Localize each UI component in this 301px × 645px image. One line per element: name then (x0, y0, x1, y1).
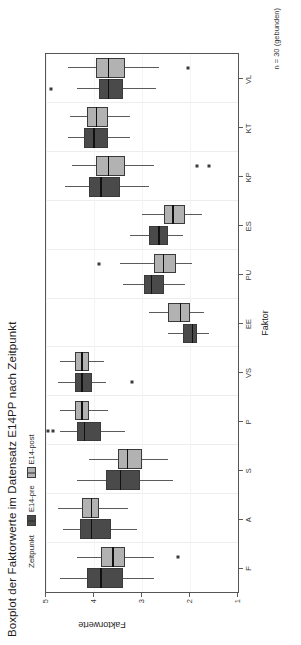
y-axis: 54321 (45, 593, 239, 615)
legend-title: Zeitpunkt (27, 535, 36, 568)
gridline-value (142, 54, 143, 592)
boxplot-box[interactable] (99, 79, 123, 99)
boxplot-outlier (52, 430, 55, 433)
legend-item-e14-post[interactable]: E14-post (27, 434, 36, 478)
boxplot-box[interactable] (75, 373, 92, 393)
y-tick-label-4: 4 (89, 599, 98, 603)
y-tick (141, 593, 142, 597)
boxplot-median (163, 254, 165, 274)
boxplot-box[interactable] (183, 324, 197, 344)
boxplot-median (112, 547, 114, 567)
figure-rotator: Boxplot der Faktorwerte im Datensatz E14… (0, 0, 301, 645)
boxplot-median (108, 156, 110, 176)
boxplot-median (127, 449, 129, 469)
boxplot-median (91, 498, 93, 518)
boxplot-box[interactable] (144, 275, 163, 295)
y-tick (93, 593, 94, 597)
x-tick-label-kt: KT (244, 124, 253, 134)
legend-key-post-icon (27, 467, 36, 478)
boxplot-median (96, 107, 98, 127)
x-axis-title: Faktor (260, 53, 270, 593)
boxplot-median (81, 373, 83, 393)
x-tick-label-a: A (244, 517, 253, 522)
boxplot-median (81, 352, 83, 372)
legend-label-e14-pre: E14-pre (27, 485, 36, 512)
x-tick-label-vl: VL (244, 75, 253, 84)
x-tick-label-es: ES (244, 221, 253, 231)
x-tick-label-ee: EE (244, 319, 253, 329)
y-axis-title: Faktorwerte (5, 620, 199, 630)
boxplot-median (100, 568, 102, 588)
x-tick (239, 225, 243, 226)
y-tick-label-1: 1 (233, 599, 242, 603)
x-tick-label-p: P (244, 419, 253, 424)
boxplot-box[interactable] (84, 128, 108, 148)
x-tick-label-f: F (244, 566, 253, 571)
x-tick (239, 519, 243, 520)
x-tick (239, 372, 243, 373)
boxplot-box[interactable] (96, 58, 125, 78)
boxplot-outlier (186, 66, 189, 69)
x-tick-label-s: S (244, 468, 253, 473)
boxplot-box[interactable] (77, 422, 101, 442)
boxplot-median (93, 128, 95, 148)
boxplot-outlier (97, 262, 100, 265)
boxplot-box[interactable] (164, 205, 186, 225)
boxplot-median (120, 470, 122, 490)
legend: Zeitpunkt E14-pre E14-post (27, 434, 36, 568)
page-title: Boxplot der Faktorwerte im Datensatz E14… (6, 321, 18, 637)
x-tick (239, 421, 243, 422)
legend-label-e14-post: E14-post (27, 434, 36, 464)
x-tick-label-vs: VS (244, 368, 253, 378)
y-tick (237, 593, 238, 597)
x-tick (239, 127, 243, 128)
y-tick-label-5: 5 (41, 599, 50, 603)
boxplot-box[interactable] (87, 568, 123, 588)
x-tick (239, 323, 243, 324)
chart-caption: n = 30 (gebunden) (272, 8, 281, 70)
plot-panel (45, 53, 239, 593)
boxplot-box[interactable] (106, 470, 140, 490)
boxplot-median (180, 303, 182, 323)
boxplot-median (81, 401, 83, 421)
x-tick (239, 176, 243, 177)
x-tick (239, 78, 243, 79)
x-tick (239, 470, 243, 471)
boxplot-box[interactable] (118, 449, 142, 469)
y-tick-label-3: 3 (137, 599, 146, 603)
boxplot-median (91, 519, 93, 539)
boxplot-outlier (49, 87, 52, 90)
chart-figure: Boxplot der Faktorwerte im Datensatz E14… (0, 0, 301, 645)
boxplot-median (108, 79, 110, 99)
boxplot-outlier (177, 556, 180, 559)
boxplot-box[interactable] (154, 254, 176, 274)
legend-key-pre-icon (27, 515, 36, 526)
boxplot-median (84, 422, 86, 442)
y-tick (45, 593, 46, 597)
boxplot-box[interactable] (96, 156, 125, 176)
boxplot-box[interactable] (89, 177, 120, 197)
x-axis: FASPVSEEPUESKPKTVL (239, 53, 261, 593)
boxplot-box[interactable] (80, 519, 111, 539)
gridline-value (46, 54, 47, 592)
boxplot-median (151, 275, 153, 295)
boxplot-outlier (208, 164, 211, 167)
x-tick (239, 274, 243, 275)
y-tick-label-2: 2 (185, 599, 194, 603)
boxplot-box[interactable] (87, 107, 109, 127)
y-tick (189, 593, 190, 597)
boxplot-median (192, 324, 194, 344)
boxplot-outlier (196, 164, 199, 167)
x-tick (239, 568, 243, 569)
boxplot-outlier (47, 430, 50, 433)
x-tick-label-pu: PU (244, 270, 253, 280)
boxplot-median (172, 205, 174, 225)
boxplot-median (100, 177, 102, 197)
legend-item-e14-pre[interactable]: E14-pre (27, 485, 36, 526)
x-tick-label-kp: KP (244, 172, 253, 182)
boxplot-median (108, 58, 110, 78)
boxplot-median (158, 226, 160, 246)
boxplot-outlier (131, 381, 134, 384)
